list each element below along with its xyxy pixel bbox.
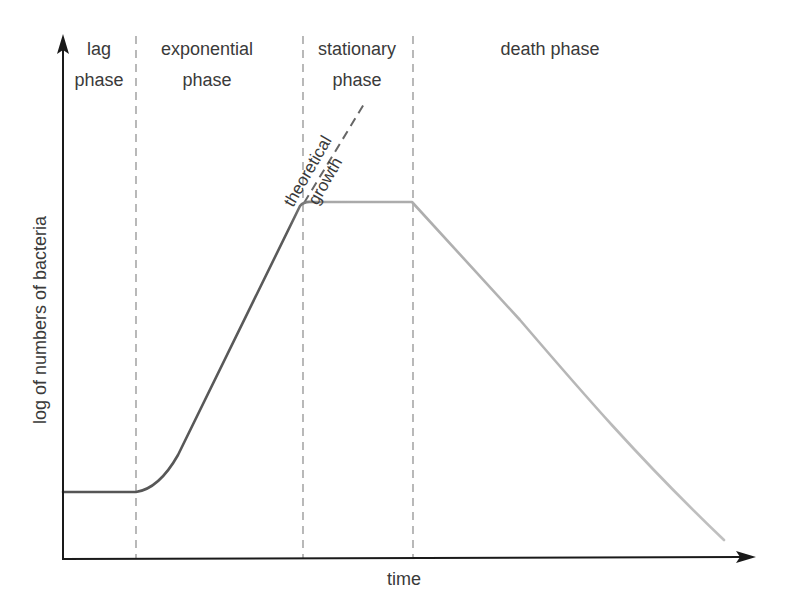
growth-curve-diagram: lag phase exponential phase stationary p… xyxy=(0,0,788,615)
x-axis-label: time xyxy=(387,569,421,589)
phase-label-stationary-2: phase xyxy=(332,70,381,90)
diagram-canvas: lag phase exponential phase stationary p… xyxy=(0,0,788,615)
phase-label-exponential-2: phase xyxy=(182,70,231,90)
growth-curve xyxy=(63,202,724,540)
phase-label-stationary-1: stationary xyxy=(318,39,396,59)
phase-label-exponential-1: exponential xyxy=(161,39,253,59)
theoretical-growth-annotation: theoretical growth xyxy=(280,133,353,220)
phase-label-lag-2: phase xyxy=(74,70,123,90)
phase-label-death: death phase xyxy=(500,39,599,59)
y-axis-label: log of numbers of bacteria xyxy=(30,215,50,424)
x-axis xyxy=(62,557,742,559)
phase-label-lag-1: lag xyxy=(87,39,111,59)
